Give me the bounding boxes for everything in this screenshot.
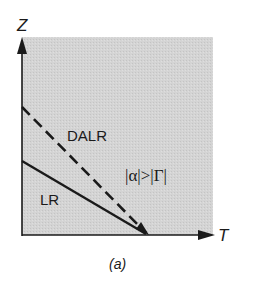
- z-axis-label: Z: [16, 16, 28, 35]
- dalr-label: DALR: [67, 127, 107, 144]
- figure-caption: (a): [109, 256, 126, 272]
- lapse-rate-diagram: Z T DALR LR |α|>|Γ| (a): [0, 0, 255, 281]
- diagram-canvas: Z T DALR LR |α|>|Γ| (a): [0, 0, 255, 281]
- region-label: |α|>|Γ|: [125, 166, 167, 185]
- t-axis-label: T: [218, 226, 230, 245]
- lr-label: LR: [40, 191, 59, 208]
